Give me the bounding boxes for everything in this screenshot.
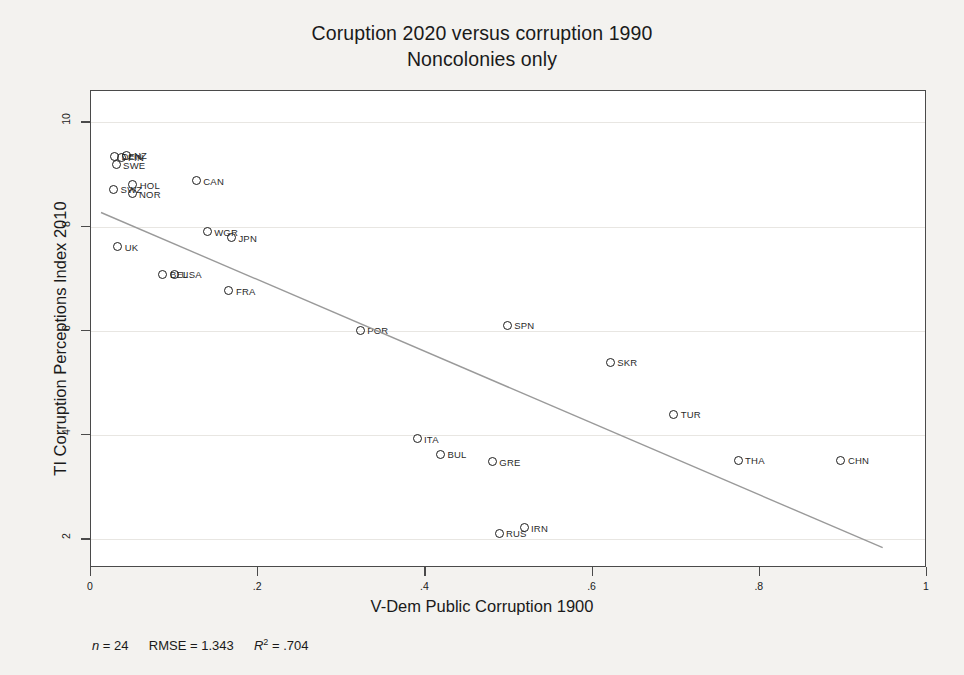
stat-rmse-label: RMSE =	[149, 638, 198, 653]
x-tick-mark	[424, 567, 425, 576]
stat-r2-exponent: 2	[263, 637, 268, 647]
stat-rmse-value: 1.343	[201, 638, 234, 653]
x-tick-label: .4	[409, 580, 439, 592]
page-title: Coruption 2020 versus corruption 1990	[0, 20, 964, 46]
stat-r2-value: = .704	[272, 638, 309, 653]
regression-stats: n = 24 RMSE = 1.343 R2 = .704	[92, 637, 309, 653]
chart-page: Coruption 2020 versus corruption 1990 No…	[0, 0, 964, 675]
x-tick-mark	[926, 567, 927, 576]
y-tick-label: 2	[56, 530, 76, 542]
y-tick-mark	[81, 330, 90, 331]
x-tick-label: 0	[75, 580, 105, 592]
y-tick-label: 4	[56, 426, 76, 438]
y-tick-mark	[81, 121, 90, 122]
y-tick-mark	[81, 434, 90, 435]
x-tick-label: .2	[242, 580, 272, 592]
x-tick-mark	[592, 567, 593, 576]
y-axis-title: TI Corruption Perceptions Index 2010	[51, 99, 70, 579]
x-tick-mark	[257, 567, 258, 576]
chart-subtitle: Noncolonies only	[0, 46, 964, 72]
x-tick-label: .6	[577, 580, 607, 592]
x-axis-title: V-Dem Public Corruption 1900	[0, 597, 964, 616]
chart-title-block: Coruption 2020 versus corruption 1990 No…	[0, 20, 964, 72]
x-tick-mark	[759, 567, 760, 576]
stat-n-label: n	[92, 638, 99, 653]
regression-line	[91, 91, 927, 568]
y-tick-mark	[81, 226, 90, 227]
y-tick-mark	[81, 538, 90, 539]
stat-r2-label: R	[254, 638, 263, 653]
y-tick-label: 6	[56, 322, 76, 334]
x-tick-mark	[90, 567, 91, 576]
stat-n-value: = 24	[103, 638, 129, 653]
x-tick-label: .8	[744, 580, 774, 592]
y-tick-label: 8	[56, 218, 76, 230]
x-tick-label: 1	[911, 580, 941, 592]
plot-area: DENFINNZSWEHOLSWZNORCANWGRJPNUKBELUSAFRA…	[90, 90, 926, 567]
y-tick-label: 10	[56, 113, 76, 125]
